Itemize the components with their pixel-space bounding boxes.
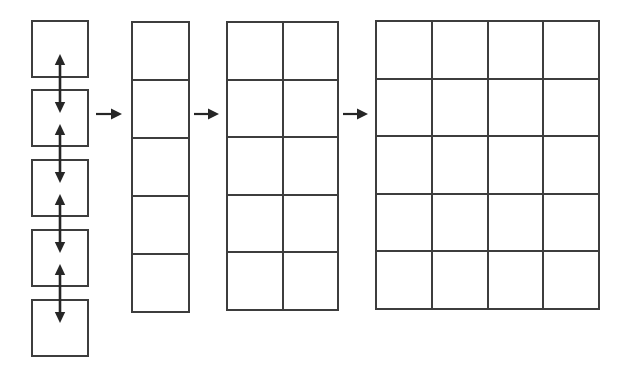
single-column-grid-cell-r4-c1 xyxy=(133,197,190,255)
four-column-grid-cell-r1-c2 xyxy=(433,22,489,80)
single-column-grid-cell-r1-c1 xyxy=(133,23,190,81)
four-column-grid-cell-r5-c3 xyxy=(489,252,545,310)
arrow-stage2-to-stage3-icon xyxy=(194,107,219,121)
two-column-grid-cell-r4-c2 xyxy=(284,196,340,254)
four-column-grid-cell-r2-c4 xyxy=(544,80,600,138)
four-column-grid-cell-r5-c4 xyxy=(544,252,600,310)
double-arrow-between-square-2-and-3-icon xyxy=(51,124,69,183)
single-column-grid-cell-r2-c1 xyxy=(133,81,190,139)
two-column-grid-cell-r2-c1 xyxy=(228,81,284,139)
four-column-grid-cell-r1-c4 xyxy=(544,22,600,80)
two-column-grid-cell-r5-c1 xyxy=(228,253,284,311)
double-arrow-between-square-3-and-4-icon xyxy=(51,194,69,253)
two-column-grid-cell-r4-c1 xyxy=(228,196,284,254)
four-column-grid-cell-r4-c1 xyxy=(377,195,433,253)
diagram-canvas xyxy=(0,0,627,376)
four-column-grid-cell-r3-c2 xyxy=(433,137,489,195)
four-column-grid-cell-r5-c2 xyxy=(433,252,489,310)
two-column-grid-cell-r3-c2 xyxy=(284,138,340,196)
four-column-grid-cell-r3-c4 xyxy=(544,137,600,195)
four-column-grid-cell-r1-c3 xyxy=(489,22,545,80)
double-arrow-between-square-4-and-5-icon xyxy=(51,264,69,323)
four-column-grid-cell-r1-c1 xyxy=(377,22,433,80)
single-column-grid xyxy=(131,21,190,313)
four-column-grid-cell-r4-c3 xyxy=(489,195,545,253)
two-column-grid-cell-r5-c2 xyxy=(284,253,340,311)
two-column-grid xyxy=(226,21,339,311)
four-column-grid-cell-r5-c1 xyxy=(377,252,433,310)
arrow-stage3-to-stage4-icon xyxy=(343,107,368,121)
two-column-grid-cell-r1-c2 xyxy=(284,23,340,81)
double-arrow-between-square-1-and-2-icon xyxy=(51,54,69,113)
arrow-stage1-to-stage2-icon xyxy=(96,107,122,121)
two-column-grid-cell-r1-c1 xyxy=(228,23,284,81)
four-column-grid-cell-r2-c2 xyxy=(433,80,489,138)
four-column-grid-cell-r2-c3 xyxy=(489,80,545,138)
four-column-grid-cell-r4-c2 xyxy=(433,195,489,253)
single-column-grid-cell-r3-c1 xyxy=(133,139,190,197)
four-column-grid-cell-r2-c1 xyxy=(377,80,433,138)
four-column-grid-cell-r3-c3 xyxy=(489,137,545,195)
four-column-grid-cell-r4-c4 xyxy=(544,195,600,253)
four-column-grid-cell-r3-c1 xyxy=(377,137,433,195)
single-column-grid-cell-r5-c1 xyxy=(133,255,190,313)
four-column-grid xyxy=(375,20,600,310)
two-column-grid-cell-r3-c1 xyxy=(228,138,284,196)
two-column-grid-cell-r2-c2 xyxy=(284,81,340,139)
